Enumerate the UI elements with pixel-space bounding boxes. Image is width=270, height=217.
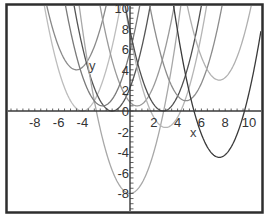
y-tick-label: -8 — [117, 186, 129, 201]
y-tick-label: 2 — [122, 83, 129, 98]
x-tick-label: -8 — [29, 115, 41, 130]
x-tick-label: 8 — [222, 115, 229, 130]
y-tick-label: -6 — [117, 166, 129, 181]
y-axis-label: y — [89, 58, 96, 73]
x-tick-label: 6 — [198, 115, 205, 130]
x-tick-label: 4 — [174, 115, 181, 130]
plot-frame — [7, 5, 263, 213]
x-tick-label: -6 — [53, 115, 65, 130]
x-tick-label: 10 — [242, 115, 256, 130]
chart: -8-6-42468101086420-2-4-6-8 x y — [0, 0, 270, 217]
y-tick-label: 6 — [122, 42, 129, 57]
y-tick-label: 8 — [122, 22, 129, 37]
y-tick-label: 10 — [115, 1, 129, 16]
y-tick-label: 0 — [122, 104, 129, 119]
y-tick-label: -4 — [117, 145, 129, 160]
x-tick-label: -4 — [77, 115, 89, 130]
y-tick-label: 4 — [122, 63, 129, 78]
x-tick-label: 2 — [150, 115, 157, 130]
x-axis-label: x — [190, 125, 197, 140]
y-tick-label: -2 — [117, 125, 129, 140]
